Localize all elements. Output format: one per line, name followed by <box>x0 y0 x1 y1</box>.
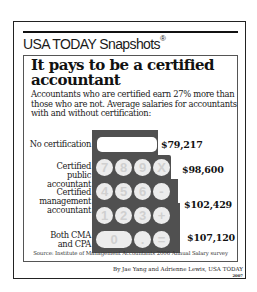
calc-key: X <box>153 159 170 176</box>
calculator-display <box>97 137 157 152</box>
row-value: $102,429 <box>184 199 232 210</box>
chart-title: It pays to be a certified accountant <box>31 58 231 88</box>
calc-key: - <box>153 183 170 200</box>
calc-key: 4 <box>96 183 113 200</box>
registered-mark: ® <box>160 34 165 43</box>
row-label: No certification <box>21 140 91 149</box>
calc-key: 8 <box>115 159 132 176</box>
row-value: $98,600 <box>182 164 224 175</box>
calc-key: 6 <box>134 183 151 200</box>
calc-key: 0 <box>96 231 132 248</box>
row-label: Certified public accountant <box>33 162 91 189</box>
chart-subtitle: Accountants who are certified earn 27% m… <box>31 90 237 119</box>
calc-key: 1 <box>96 207 113 224</box>
calc-key: + <box>153 207 170 224</box>
header-rule <box>23 31 238 33</box>
brand-title: USA TODAY Snapshots® <box>23 36 165 52</box>
calc-key: 7 <box>96 159 113 176</box>
calc-key: 3 <box>134 207 151 224</box>
calc-key: 9 <box>134 159 151 176</box>
brand-text: USA TODAY Snapshots <box>23 36 160 52</box>
calc-key: . <box>134 231 151 248</box>
calc-key: = <box>153 231 170 248</box>
calc-key: 5 <box>115 183 132 200</box>
row-label: Both CMA and CPA <box>47 231 91 249</box>
byline: By Jae Yang and Adrienne Lewis, USA TODA… <box>113 266 243 272</box>
year: 2007 <box>232 273 243 278</box>
calc-key: 2 <box>115 207 132 224</box>
row-value: $107,120 <box>187 232 235 243</box>
row-value: $79,217 <box>161 139 203 150</box>
row-label: Certified management accountant <box>35 188 91 215</box>
source-note: Source: Institute of Management Accounta… <box>23 250 238 256</box>
